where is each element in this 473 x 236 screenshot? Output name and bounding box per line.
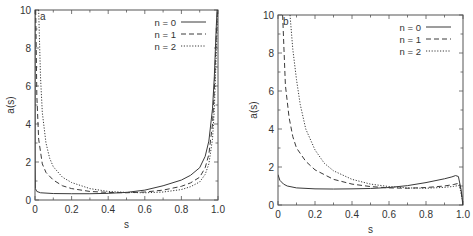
series-line-n0 [35,10,217,194]
panel-b-plot: 00.20.40.60.81.00246810sa(s)bn = 0n = 1n… [248,10,470,236]
x-tick-label: 0.4 [101,204,115,215]
series-line-n2 [290,15,463,205]
legend-label: n = 1 [155,29,176,40]
y-tick-label: 2 [25,157,31,168]
y-tick-label: 4 [25,119,31,130]
x-tick-label: 0 [32,204,38,215]
legend-label: n = 0 [155,17,176,28]
x-tick-label: 1.0 [456,209,470,220]
x-axis-label: s [368,224,373,235]
panel-a-plot: 00.20.40.60.81.00246810sa(s)an = 0n = 1n… [5,5,225,231]
legend-label: n = 0 [400,22,421,33]
y-tick-label: 6 [268,86,274,97]
x-tick-label: 0.4 [345,209,359,220]
series-line-n1 [36,10,218,193]
y-tick-label: 8 [25,43,31,54]
x-tick-label: 0 [275,209,281,220]
x-tick-label: 0.6 [138,204,152,215]
curves [35,10,218,194]
legend-label: n = 1 [400,34,421,45]
y-tick-label: 2 [268,162,274,173]
y-tick-label: 0 [25,195,31,206]
legend: n = 0n = 1n = 2 [155,17,206,52]
x-axis-label: s [124,219,129,230]
figure-canvas: 00.20.40.60.81.00246810sa(s)an = 0n = 1n… [0,0,473,235]
y-tick-label: 0 [268,200,274,211]
y-tick-label: 10 [20,5,32,16]
y-axis-label: a(s) [248,101,259,118]
series-line-n0 [278,175,463,205]
y-tick-label: 6 [25,81,31,92]
panel-label: a [40,11,46,22]
x-tick-label: 0.8 [419,209,433,220]
series-line-n1 [283,15,463,205]
legend-label: n = 2 [155,41,176,52]
x-tick-label: 0.6 [382,209,396,220]
y-tick-label: 4 [268,124,274,135]
y-axis-label: a(s) [5,96,16,113]
x-tick-label: 0.2 [65,204,79,215]
plot-frame [278,15,463,205]
figure: 00.20.40.60.81.00246810sa(s)an = 0n = 1n… [0,0,473,235]
plot-frame [35,10,218,200]
curves [278,15,463,205]
panel-label: b [283,16,289,27]
x-tick-label: 0.2 [308,209,322,220]
x-tick-label: 0.8 [174,204,188,215]
series-line-n2 [39,10,218,193]
y-tick-label: 8 [268,48,274,59]
y-tick-label: 10 [263,10,275,21]
x-tick-label: 1.0 [211,204,225,215]
legend: n = 0n = 1n = 2 [400,22,451,57]
legend-label: n = 2 [400,46,421,57]
